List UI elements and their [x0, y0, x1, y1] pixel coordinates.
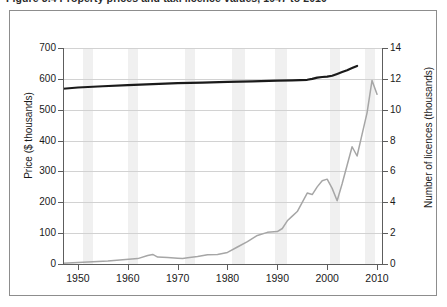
right-tick-8: [383, 141, 388, 142]
left-tick-600: [58, 79, 63, 80]
left-tick-700: [58, 48, 63, 49]
x-tick-label-1990: 1990: [255, 272, 299, 284]
left-axis-title: Price ($ thousands): [23, 56, 34, 216]
x-tick-label-1950: 1950: [56, 272, 100, 284]
right-tick-label-8: 8: [390, 136, 396, 146]
right-tick-label-4: 4: [390, 197, 396, 207]
right-tick-6: [383, 171, 388, 172]
left-tick-label-100: 100: [2, 228, 56, 238]
x-tick-label-1960: 1960: [106, 272, 150, 284]
x-tick-1960: [128, 265, 129, 270]
left-tick-label-700: 700: [2, 43, 56, 53]
x-tick-1950: [78, 265, 79, 270]
x-tick-1970: [178, 265, 179, 270]
x-tick-1980: [227, 265, 228, 270]
x-tick-label-1980: 1980: [205, 272, 249, 284]
right-tick-4: [383, 202, 388, 203]
right-axis-title: Number of licences (thousands): [423, 48, 434, 228]
left-axis-spine: [63, 48, 64, 265]
right-tick-label-2: 2: [390, 228, 396, 238]
right-tick-label-0: 0: [390, 259, 396, 269]
x-tick-2000: [327, 265, 328, 270]
left-tick-100: [58, 233, 63, 234]
right-tick-label-10: 10: [390, 105, 401, 115]
right-tick-12: [383, 79, 388, 80]
bottom-axis-spine: [63, 264, 383, 265]
right-tick-10: [383, 110, 388, 111]
series-layer: [63, 48, 382, 264]
left-tick-label-0: 0: [2, 259, 56, 269]
right-tick-label-6: 6: [390, 166, 396, 176]
x-tick-label-2010: 2010: [355, 272, 399, 284]
left-tick-0: [58, 264, 63, 265]
x-tick-label-1970: 1970: [156, 272, 200, 284]
right-tick-2: [383, 233, 388, 234]
right-tick-label-14: 14: [390, 43, 401, 53]
line-number-of-licences: [63, 80, 377, 263]
x-tick-label-2000: 2000: [305, 272, 349, 284]
left-tick-500: [58, 110, 63, 111]
x-tick-1990: [277, 265, 278, 270]
right-tick-14: [383, 48, 388, 49]
left-tick-400: [58, 141, 63, 142]
plot-area: [63, 48, 382, 264]
right-tick-0: [383, 264, 388, 265]
line-property-price: [63, 66, 357, 89]
x-tick-2010: [377, 265, 378, 270]
left-tick-300: [58, 171, 63, 172]
chart-canvas: 0100200300400500600700 02468101214 19501…: [0, 0, 447, 307]
right-tick-label-12: 12: [390, 74, 401, 84]
left-tick-200: [58, 202, 63, 203]
